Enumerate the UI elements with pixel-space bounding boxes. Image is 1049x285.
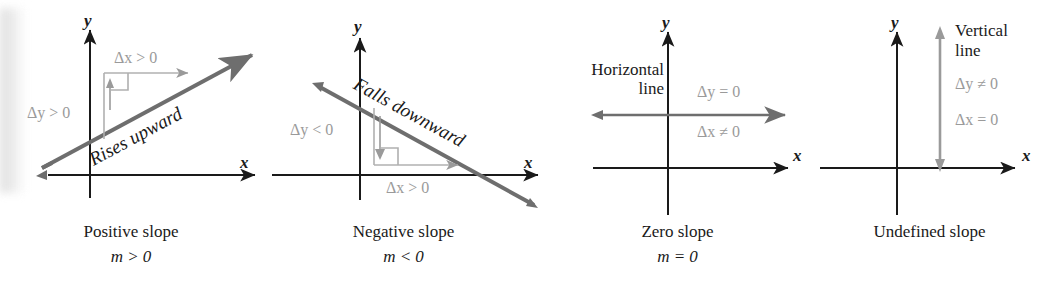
delta-x-label: Δx ≠ 0 — [697, 124, 740, 140]
x-axis-label: x — [793, 147, 802, 164]
y-axis-label: y — [354, 18, 362, 35]
delta-x-label: Δx > 0 — [114, 50, 157, 66]
caption-text: Positive slope — [0, 220, 262, 245]
vertical-line-bottom-arrow — [935, 159, 945, 172]
panel-negative-slope: y x Δx > 0 Δy < 0 Falls downward Negativ… — [262, 0, 545, 285]
rise-arrow-head — [375, 149, 385, 160]
x-axis-label: x — [524, 154, 533, 171]
y-axis-label: y — [84, 12, 92, 29]
caption-text: Undefined slope — [810, 220, 1049, 245]
delta-y-label: Δy ≠ 0 — [955, 76, 998, 92]
vertical-line-note-line1: Vertical — [955, 22, 1008, 39]
panel-positive-slope: y x Δx > 0 Δy > 0 Rises upward Positive … — [0, 0, 262, 285]
panel-zero-slope: y x Horizontal line Δy = 0 Δx ≠ 0 Zero s… — [545, 0, 810, 285]
caption-formula: m = 0 — [545, 245, 810, 270]
delta-y-label: Δy = 0 — [697, 84, 740, 100]
vertical-line-note: Vertical line — [955, 22, 1008, 59]
slope-line-tail — [42, 163, 52, 168]
slope-line-tail-arrow — [36, 170, 47, 180]
caption-positive-slope: Positive slope m > 0 — [0, 220, 262, 269]
slope-line — [42, 55, 252, 168]
panel-undefined-slope: y x Vertical line Δy ≠ 0 Δx = 0 Undefine… — [810, 0, 1049, 285]
y-axis-label: y — [891, 14, 899, 31]
caption-text: Zero slope — [545, 220, 810, 245]
delta-y-label: Δy > 0 — [27, 105, 70, 121]
y-axis-label: y — [662, 14, 670, 31]
caption-zero-slope: Zero slope m = 0 — [545, 220, 810, 269]
caption-undefined-slope: Undefined slope — [810, 220, 1049, 245]
caption-text: Negative slope — [262, 220, 545, 245]
delta-y-label: Δy < 0 — [290, 122, 333, 138]
rise-arrow-head — [106, 78, 114, 88]
horizontal-line-tail-arrow — [591, 110, 603, 120]
vertical-line-top-arrow — [935, 26, 945, 39]
delta-x-label: Δx = 0 — [955, 112, 998, 128]
vertical-line-note-line2: line — [955, 42, 1008, 59]
caption-formula: m < 0 — [262, 245, 545, 270]
delta-x-label: Δx > 0 — [386, 180, 429, 196]
horizontal-line-note: Horizontal line — [552, 61, 664, 97]
x-axis-label: x — [1022, 147, 1031, 164]
horizontal-line-note-line2: line — [552, 80, 664, 97]
horizontal-line-note-line1: Horizontal — [552, 61, 664, 78]
caption-negative-slope: Negative slope m < 0 — [262, 220, 545, 269]
caption-formula: m > 0 — [0, 245, 262, 270]
x-axis-label: x — [240, 154, 249, 171]
